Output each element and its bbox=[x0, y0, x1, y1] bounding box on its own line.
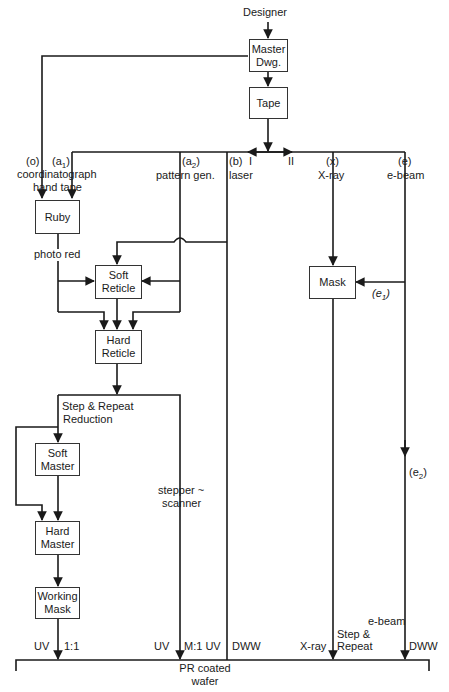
hard-master-box: Hard Master bbox=[35, 521, 80, 555]
master-drawing-label: Master Dwg. bbox=[252, 43, 286, 69]
wafer-label: wafer bbox=[170, 675, 240, 688]
uv-label-1: UV bbox=[34, 640, 49, 653]
laser-label: laser bbox=[229, 169, 253, 182]
ruby-label: Ruby bbox=[45, 211, 71, 224]
dww-label-2: DWW bbox=[409, 640, 438, 653]
pr-coated-label: PR coated bbox=[170, 662, 240, 675]
branch-x-tag: (x) bbox=[326, 155, 339, 168]
hand-tape-label: hand tape bbox=[33, 181, 82, 194]
soft-master-box: Soft Master bbox=[35, 443, 80, 476]
e1-label: (e1) bbox=[372, 287, 390, 304]
hard-master-line1: Hard bbox=[46, 525, 70, 538]
branch-o-tag: (o) bbox=[26, 155, 39, 168]
soft-reticle-line2: Reticle bbox=[102, 282, 136, 295]
branch-e-tag: (e) bbox=[398, 155, 411, 168]
uv-label-2: UV bbox=[154, 640, 169, 653]
ebeam-label: e-beam bbox=[387, 169, 424, 182]
stepper-label-1: stepper ~ bbox=[158, 484, 204, 497]
photo-red-label: photo red bbox=[34, 248, 80, 261]
soft-reticle-line1: Soft bbox=[109, 269, 129, 282]
ratio-m1-label: M:1 UV bbox=[184, 640, 221, 653]
working-mask-line1: Working bbox=[37, 590, 77, 603]
e2-label: (e2) bbox=[409, 466, 427, 483]
hard-reticle-line2: Reticle bbox=[102, 347, 136, 360]
mask-box: Mask bbox=[309, 266, 356, 299]
pattern-gen-label: pattern gen. bbox=[156, 169, 215, 182]
hard-master-line2: Master bbox=[41, 538, 75, 551]
branch-b-tag: (b) bbox=[229, 155, 242, 168]
master-drawing-box: Master Dwg. bbox=[249, 39, 288, 72]
mask-label: Mask bbox=[319, 276, 345, 289]
designer-label: Designer bbox=[243, 6, 287, 19]
tape-box: Tape bbox=[249, 87, 288, 119]
direction-I-label: I bbox=[249, 155, 252, 168]
step-repeat-label-2: Reduction bbox=[63, 413, 113, 426]
ruby-box: Ruby bbox=[35, 200, 80, 234]
hard-reticle-box: Hard Reticle bbox=[95, 330, 142, 364]
coordinatograph-label: coordinatograph bbox=[17, 168, 97, 181]
hard-reticle-line1: Hard bbox=[107, 334, 131, 347]
soft-master-line1: Soft bbox=[48, 447, 68, 460]
tape-label: Tape bbox=[257, 97, 281, 110]
direction-II-label: II bbox=[288, 155, 294, 168]
working-mask-box: Working Mask bbox=[35, 587, 80, 619]
step-repeat-bottom-2: Repeat bbox=[337, 640, 372, 653]
ebeam-bottom-label: e-beam bbox=[368, 615, 405, 628]
stepper-label-2: scanner bbox=[162, 497, 201, 510]
xray-label: X-ray bbox=[318, 169, 344, 182]
soft-master-line2: Master bbox=[41, 460, 75, 473]
dww-label-1: DWW bbox=[232, 640, 261, 653]
ratio-1to1-label: 1:1 bbox=[64, 640, 79, 653]
working-mask-line2: Mask bbox=[44, 603, 70, 616]
step-repeat-label-1: Step & Repeat bbox=[62, 400, 134, 413]
xray-bottom-label: X-ray bbox=[300, 640, 326, 653]
soft-reticle-box: Soft Reticle bbox=[95, 265, 142, 299]
